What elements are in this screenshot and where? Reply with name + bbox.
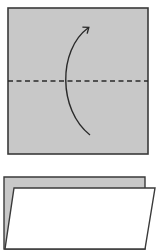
front-layer: [5, 188, 155, 249]
origami-diagram: [0, 0, 162, 251]
step2-folded: [4, 177, 155, 249]
step1-square: [8, 8, 148, 154]
